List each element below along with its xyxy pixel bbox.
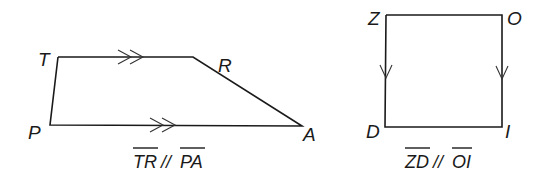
trapezoid-outline (50, 57, 302, 126)
caption-seg-zd: ZD (404, 152, 429, 172)
caption-seg-oi: OI (452, 152, 471, 172)
vertex-label-r: R (218, 55, 232, 76)
vertex-label-o: O (507, 8, 522, 29)
caption-trapezoid: TR // PA (133, 148, 205, 172)
vertex-label-d: D (366, 121, 380, 142)
caption-seg-tr: TR (133, 152, 157, 172)
caption-parallel-symbol: // (431, 152, 445, 172)
vertex-label-i: I (505, 121, 511, 142)
trapezoid-figure: T R A P TR // PA (28, 49, 316, 172)
vertex-label-t: T (38, 49, 51, 70)
vertex-label-a: A (302, 124, 316, 145)
caption-rectangle: ZD // OI (404, 148, 472, 172)
vertex-label-p: P (28, 122, 41, 143)
rectangle-outline (385, 15, 502, 127)
diagram-canvas: T R A P TR // PA Z O I D ZD // OI (0, 0, 542, 184)
caption-seg-pa: PA (180, 152, 203, 172)
caption-parallel-symbol: // (159, 152, 173, 172)
rectangle-figure: Z O I D ZD // OI (366, 8, 522, 172)
vertex-label-z: Z (367, 8, 381, 29)
